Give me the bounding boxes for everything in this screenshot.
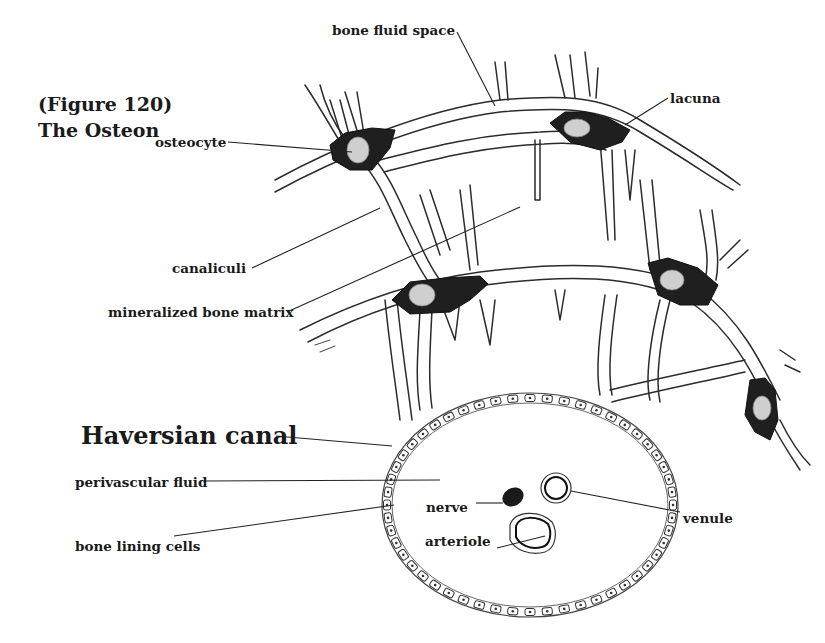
arteriole-shape (510, 513, 555, 553)
label-mineralized-bone-matrix: mineralized bone matrix (108, 304, 293, 320)
label-bone-fluid-space: bone fluid space (332, 22, 455, 38)
osteocyte-2 (550, 112, 630, 150)
label-perivascular-fluid: perivascular fluid (75, 474, 207, 490)
label-haversian-canal: Haversian canal (81, 422, 297, 450)
label-canaliculi: canaliculi (172, 260, 246, 276)
label-bone-lining-cells: bone lining cells (75, 538, 200, 554)
osteocyte-cells (330, 112, 778, 440)
nerve-shape (499, 484, 527, 511)
label-osteocyte: osteocyte (155, 134, 226, 150)
venule-shape (541, 473, 571, 503)
label-venule: venule (683, 510, 733, 526)
lamellar-channels (275, 52, 810, 470)
label-lacuna: lacuna (670, 90, 720, 106)
osteocyte-3 (392, 276, 488, 314)
label-arteriole: arteriole (425, 533, 491, 549)
label-nerve: nerve (426, 499, 468, 515)
